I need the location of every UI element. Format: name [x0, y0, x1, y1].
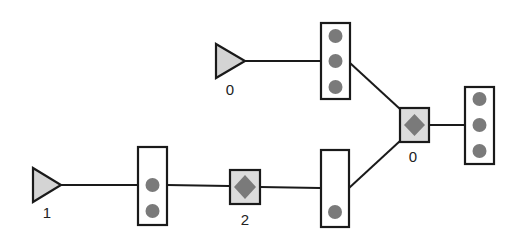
source-1: 1 [33, 168, 61, 221]
packet-dot [473, 92, 487, 106]
switch-0-label: 0 [409, 148, 417, 165]
buffer-bottom [321, 150, 349, 227]
packet-dot [146, 178, 160, 192]
network-diagram: 0 0 1 2 [0, 0, 527, 241]
packet-dot [146, 204, 160, 218]
buffer-top [321, 23, 350, 99]
packet-dot [473, 118, 487, 132]
source-triangle-icon [216, 44, 245, 78]
packet-dot [329, 80, 343, 94]
source-triangle-icon [33, 168, 61, 202]
switch-2: 2 [230, 170, 260, 228]
packet-dot [329, 29, 343, 43]
source-0-label: 0 [226, 81, 234, 98]
edge-buffer-top-switch0 [350, 63, 400, 109]
packet-dot [473, 144, 487, 158]
packet-dot [328, 205, 342, 219]
packet-dot [329, 54, 343, 68]
buffer-right [465, 87, 494, 164]
source-1-label: 1 [43, 204, 51, 221]
edge-buffer-bottom-switch0 [349, 141, 400, 188]
switch-0: 0 [400, 108, 429, 165]
edge-buffer-left-switch2 [167, 185, 229, 186]
source-0: 0 [216, 44, 245, 98]
edge-switch2-buffer-bottom [260, 187, 320, 188]
buffer-left [138, 147, 167, 225]
switch-2-label: 2 [241, 211, 249, 228]
